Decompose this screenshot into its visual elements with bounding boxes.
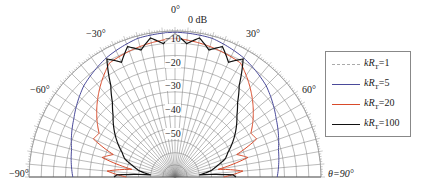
legend-swatch-dashed-gray	[332, 64, 360, 65]
chart-legend: kRT=1 kRT=5 kRT=20 kRT=100	[325, 51, 411, 137]
legend-label: kRT=20	[364, 97, 394, 111]
radial-label-10: −10	[165, 33, 181, 44]
angle-label-neg30: −30°	[86, 28, 106, 39]
angle-label-30: 30°	[246, 28, 260, 39]
radial-label-40: −40	[165, 104, 181, 115]
legend-label: kRT=100	[364, 117, 399, 131]
legend-swatch-red	[332, 104, 360, 105]
angle-label-60: 60°	[302, 84, 316, 95]
angle-label-90: θ=90°	[328, 168, 354, 179]
radial-label-0db: 0 dB	[188, 14, 207, 25]
legend-label: kRT=1	[364, 57, 389, 71]
legend-item-kr20: kRT=20	[332, 97, 394, 111]
legend-swatch-black	[332, 124, 360, 125]
legend-label: kRT=5	[364, 77, 389, 91]
angle-label-neg90: −90°	[9, 168, 29, 179]
angle-label-0: 0°	[171, 4, 180, 15]
radial-label-30: −30	[165, 80, 181, 91]
polar-grid	[25, 27, 325, 177]
legend-item-kr100: kRT=100	[332, 117, 399, 131]
radial-label-50: −50	[165, 128, 181, 139]
legend-swatch-blue	[332, 84, 360, 85]
radial-label-20: −20	[165, 57, 181, 68]
legend-item-kr5: kRT=5	[332, 77, 389, 91]
legend-item-kr1: kRT=1	[332, 57, 389, 71]
angle-label-neg60: −60°	[30, 84, 50, 95]
